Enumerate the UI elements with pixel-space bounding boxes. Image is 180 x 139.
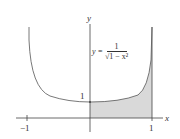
denominator: √1 − x²	[105, 52, 128, 61]
y-intercept-point	[89, 101, 91, 103]
numerator: 1	[107, 42, 127, 52]
equation-lhs: y =	[92, 47, 103, 56]
tick-label-neg1: −1	[20, 124, 30, 133]
fraction: 1 √1 − x²	[105, 42, 128, 61]
shaded-region	[90, 27, 152, 118]
y-intercept-label: 1	[80, 92, 85, 101]
tick-label-pos1: 1	[149, 124, 154, 133]
y-axis-label: y	[87, 14, 91, 23]
x-axis-label: x	[165, 114, 169, 123]
equation-label: y = 1 √1 − x²	[92, 42, 128, 61]
curve	[29, 27, 152, 102]
